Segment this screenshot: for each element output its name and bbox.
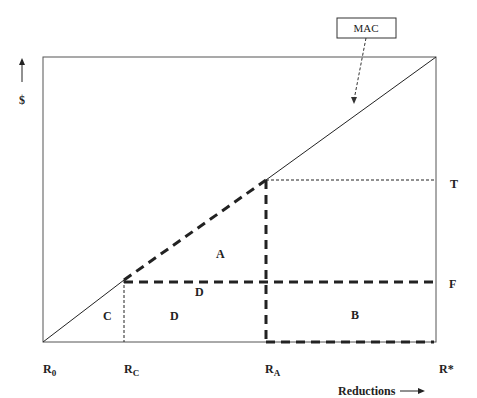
x-tick-r0: R0 xyxy=(43,362,57,378)
t-label: T xyxy=(450,177,458,191)
region-b-label: B xyxy=(351,308,359,322)
mac-diagram: MAC $ A D D C B T F R0 RC RA R* Reductio… xyxy=(0,0,477,398)
svg-text:RC: RC xyxy=(124,362,139,378)
y-axis-label: $ xyxy=(19,93,25,107)
x-axis-label: Reductions xyxy=(338,384,396,398)
mac-callout-pointer xyxy=(354,38,366,100)
mac-line-upper xyxy=(266,57,436,180)
mac-callout-label: MAC xyxy=(353,22,378,34)
svg-text:RA: RA xyxy=(265,362,281,378)
svg-text:R*: R* xyxy=(439,362,454,376)
callout-arrowhead-icon xyxy=(351,97,357,104)
region-c-label: C xyxy=(103,309,112,323)
tick-sub: A xyxy=(274,368,281,378)
x-tick-rstar: R* xyxy=(439,362,454,376)
svg-text:R0: R0 xyxy=(43,362,57,378)
tick-main: R xyxy=(265,362,274,376)
region-d-lower-label: D xyxy=(170,309,179,323)
mac-line-dashed xyxy=(124,180,266,280)
mac-line-lower xyxy=(43,280,124,342)
tick-sub: C xyxy=(133,368,140,378)
f-label: F xyxy=(449,277,456,291)
x-tick-ra: RA xyxy=(265,362,281,378)
tick-sub: 0 xyxy=(52,368,57,378)
tick-main: R xyxy=(43,362,52,376)
tick-main: R xyxy=(439,362,448,376)
right-arrow-icon xyxy=(418,388,425,394)
region-a-label: A xyxy=(216,247,225,261)
tick-sub: * xyxy=(448,362,454,376)
region-d-upper-label: D xyxy=(195,285,204,299)
up-arrow-icon xyxy=(19,58,25,65)
tick-main: R xyxy=(124,362,133,376)
x-tick-rc: RC xyxy=(124,362,139,378)
